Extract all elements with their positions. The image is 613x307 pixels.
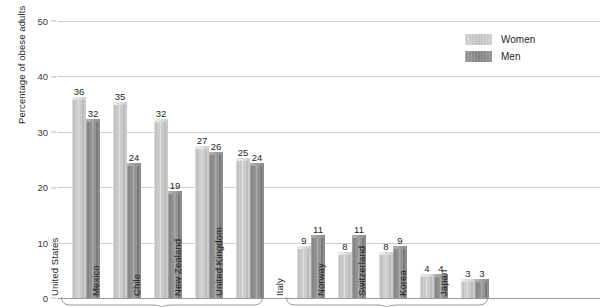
bar-cap bbox=[113, 102, 127, 105]
bar-cap bbox=[352, 235, 366, 238]
bar-fill bbox=[297, 248, 311, 298]
bar-value-label: 24 bbox=[129, 152, 140, 163]
category-label: Switzerland bbox=[356, 246, 367, 296]
legend-item-men[interactable]: Men bbox=[465, 50, 535, 63]
bar-fill bbox=[338, 254, 352, 298]
y-tick-label-40: 40 bbox=[0, 71, 56, 82]
bar-value-label: 32 bbox=[88, 108, 99, 119]
bar-group: Korea44 bbox=[408, 21, 448, 298]
bar-value-label: 9 bbox=[397, 235, 402, 246]
bar-value-label: 11 bbox=[313, 224, 323, 235]
legend-item-women[interactable]: Women bbox=[465, 33, 535, 46]
bar-value-label: 27 bbox=[197, 135, 208, 146]
bar-women: 27 bbox=[195, 148, 209, 298]
bar-fill bbox=[475, 281, 489, 298]
bar-women: 35 bbox=[113, 104, 127, 298]
bar-value-label: 24 bbox=[252, 152, 263, 163]
bar-value-label: 4 bbox=[424, 263, 429, 274]
bar-cap bbox=[72, 97, 86, 100]
group-brace-high-prevalence bbox=[60, 297, 264, 307]
legend-swatch-men bbox=[465, 51, 492, 62]
category-label: United States bbox=[49, 238, 60, 296]
y-tick-label-30: 30 bbox=[0, 126, 56, 137]
bar-value-label: 8 bbox=[342, 241, 347, 252]
bar-fill bbox=[154, 121, 168, 298]
category-label: Norway bbox=[315, 263, 326, 296]
legend-label: Men bbox=[501, 51, 520, 62]
category-label: United Kingdom bbox=[213, 227, 224, 296]
bar-women: 8 bbox=[379, 254, 393, 298]
bar-men: 24 bbox=[250, 165, 264, 298]
legend-label: Women bbox=[501, 34, 535, 45]
bar-cap bbox=[475, 279, 489, 282]
bar-women: 36 bbox=[72, 99, 86, 298]
bar-value-label: 19 bbox=[170, 180, 181, 191]
bar-group: United States3632 bbox=[60, 21, 100, 298]
group-brace-low-prevalence bbox=[285, 297, 489, 307]
bar-cap bbox=[311, 235, 325, 238]
category-label: Italy bbox=[274, 278, 285, 296]
bar-value-label: 3 bbox=[465, 268, 470, 279]
bar-fill bbox=[250, 165, 264, 298]
bar-cap bbox=[393, 246, 407, 249]
category-label: Korea bbox=[397, 270, 408, 296]
bar-cap bbox=[420, 274, 434, 277]
bar-value-label: 8 bbox=[383, 241, 388, 252]
bar-cap bbox=[236, 158, 250, 161]
bar-cap bbox=[338, 252, 352, 255]
bar-group: Italy911 bbox=[285, 21, 325, 298]
bar-fill bbox=[461, 281, 475, 298]
bar-value-label: 9 bbox=[301, 235, 306, 246]
bar-women: 4 bbox=[420, 276, 434, 298]
category-label: New Zealand bbox=[172, 239, 183, 296]
bar-value-label: 26 bbox=[211, 141, 222, 152]
bar-women: 3 bbox=[461, 281, 475, 298]
bar-women: 25 bbox=[236, 160, 250, 299]
bar-value-label: 35 bbox=[115, 91, 126, 102]
category-label: Chile bbox=[131, 274, 142, 296]
bar-women: 8 bbox=[338, 254, 352, 298]
bar-cap bbox=[168, 191, 182, 194]
legend: WomenMen bbox=[465, 33, 535, 67]
bar-group: United Kingdom2524 bbox=[224, 21, 264, 298]
bar-cap bbox=[461, 279, 475, 282]
bar-cap bbox=[86, 119, 100, 122]
y-tick-label-10: 10 bbox=[0, 237, 56, 248]
bar-fill bbox=[72, 99, 86, 298]
bar-women: 32 bbox=[154, 121, 168, 298]
legend-swatch-women bbox=[465, 34, 492, 45]
bar-value-label: 25 bbox=[238, 147, 249, 158]
bar-women: 9 bbox=[297, 248, 311, 298]
bar-cap bbox=[127, 163, 141, 166]
category-label: Mexico bbox=[90, 265, 101, 296]
bar-cap bbox=[195, 146, 209, 149]
bar-value-label: 11 bbox=[354, 224, 364, 235]
bar-men: 3 bbox=[475, 281, 489, 298]
bar-fill bbox=[195, 148, 209, 298]
bar-group: Mexico3524 bbox=[101, 21, 141, 298]
bar-value-label: 3 bbox=[479, 268, 484, 279]
bar-fill bbox=[420, 276, 434, 298]
bar-fill bbox=[113, 104, 127, 298]
y-tick-label-20: 20 bbox=[0, 182, 56, 193]
bar-cap bbox=[209, 152, 223, 155]
bar-cap bbox=[379, 252, 393, 255]
bar-fill bbox=[379, 254, 393, 298]
y-tick-label-0: 0 bbox=[0, 293, 56, 304]
bar-cap bbox=[297, 246, 311, 249]
bar-fill bbox=[236, 160, 250, 299]
bar-value-label: 32 bbox=[156, 108, 167, 119]
obesity-bar-chart: Percentage of obese adults 01020304050 U… bbox=[0, 0, 613, 307]
bar-value-label: 36 bbox=[74, 86, 85, 97]
category-label: Japan bbox=[438, 270, 449, 296]
y-tick-label-50: 50 bbox=[0, 16, 56, 27]
bar-group: Switzerland89 bbox=[367, 21, 407, 298]
bar-cap bbox=[250, 163, 264, 166]
bar-cap bbox=[154, 119, 168, 122]
